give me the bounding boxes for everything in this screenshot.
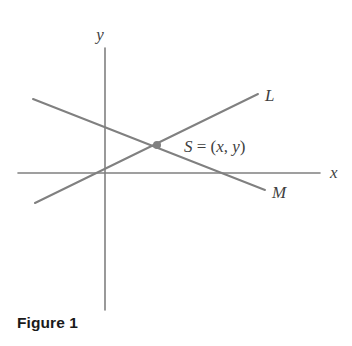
coordinate-diagram: y x L M S = (x, y) xyxy=(0,0,352,346)
point-label-S-equals: = ( xyxy=(193,137,217,156)
y-axis-label: y xyxy=(94,25,104,44)
figure-container: y x L M S = (x, y) Figure 1 xyxy=(0,0,352,346)
x-axis-label: x xyxy=(329,163,338,182)
point-label-S: S = (x, y) xyxy=(184,137,246,156)
point-label-S-comma: , xyxy=(224,137,233,156)
figure-caption: Figure 1 xyxy=(17,314,78,332)
line-label-L: L xyxy=(264,86,274,105)
point-label-S-y: y xyxy=(230,137,240,156)
line-label-M: M xyxy=(271,183,287,202)
point-label-S-close: ) xyxy=(240,137,246,156)
intersection-point-S xyxy=(153,141,161,149)
